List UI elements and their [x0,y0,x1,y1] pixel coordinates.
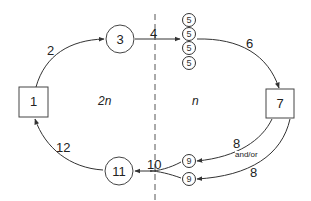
edge-8-lower [197,119,290,179]
node-1-label: 1 [19,95,48,108]
edge-label-6: 6 [246,37,253,50]
edge-label-4: 4 [150,27,157,40]
node-5-b: 5 [182,27,196,41]
edge-label-12: 12 [56,141,70,154]
region-left-label: 2n [98,95,111,107]
edge-label-2: 2 [47,44,54,57]
edge-label-8-upper: 8 [233,137,240,150]
edge-label-8-lower: 8 [250,166,257,179]
node-5-d: 5 [182,56,196,70]
node-3-label: 3 [106,33,134,46]
edge-6 [197,39,279,88]
node-5-a: 5 [182,13,196,27]
and-or-label: and/or [235,151,258,159]
node-9-upper: 9 [182,154,196,168]
node-9-lower: 9 [182,172,196,186]
region-right-label: n [192,95,199,107]
node-5-c: 5 [182,41,196,55]
node-7-label: 7 [266,97,294,110]
node-11-label: 11 [105,165,133,178]
edge-label-10: 10 [147,158,161,171]
